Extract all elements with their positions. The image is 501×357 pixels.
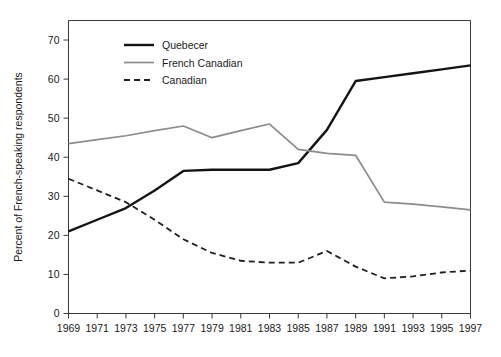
x-tick-label: 1995 [430,322,454,334]
x-tick-label: 1985 [287,322,311,334]
x-tick-label: 1973 [114,322,138,334]
y-tick-label: 0 [54,307,60,319]
chart-background [0,0,501,357]
x-tick-label: 1987 [315,322,339,334]
x-tick-label: 1983 [258,322,282,334]
legend-label-quebecer: Quebecer [162,39,209,51]
y-axis-title-label: Percent of French-speaking respondents [12,72,24,262]
y-tick-label: 30 [48,190,60,202]
chart-canvas: 010203040506070 196919711973197519771979… [0,0,501,357]
x-tick-label: 1979 [200,322,224,334]
y-tick-label: 40 [48,151,60,163]
y-tick-label: 70 [48,34,60,46]
x-tick-label: 1971 [86,322,110,334]
x-tick-label: 1991 [373,322,397,334]
x-tick-label: 1989 [344,322,368,334]
y-tick-label: 10 [48,268,60,280]
x-tick-label: 1997 [459,322,483,334]
x-tick-label: 1975 [143,322,167,334]
x-tick-label: 1977 [172,322,196,334]
x-tick-label: 1993 [401,322,425,334]
y-tick-label: 50 [48,112,60,124]
legend-label-canadian: Canadian [162,74,207,86]
y-tick-label: 60 [48,73,60,85]
legend-label-french-canadian: French Canadian [162,57,243,69]
y-axis-title: Percent of French-speaking respondents [12,72,24,262]
x-tick-label: 1981 [229,322,253,334]
line-chart: 010203040506070 196919711973197519771979… [0,0,501,357]
y-tick-label: 20 [48,229,60,241]
x-tick-label: 1969 [57,322,81,334]
